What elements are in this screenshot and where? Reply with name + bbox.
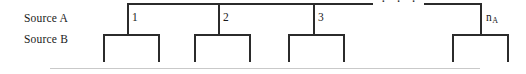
source-b-bracket-top-3	[288, 34, 345, 36]
group-caption-n: nA	[486, 11, 498, 23]
source-b-leg-2-left	[194, 34, 196, 62]
group-caption-n-subscript: A	[492, 16, 498, 25]
group-caption-2: 2	[223, 11, 229, 23]
group-caption-1: 1	[132, 11, 138, 23]
group-caption-2-text: 2	[223, 11, 229, 23]
group-caption-n-text: n	[486, 11, 492, 23]
source-b-leg-3-right	[343, 34, 345, 62]
source-b-leg-n-right	[507, 34, 509, 62]
source-b-bracket-top-n	[452, 34, 509, 36]
source-b-bracket-top-1	[103, 34, 160, 36]
source-b-bracket-top-2	[194, 34, 251, 36]
group-caption-1-text: 1	[132, 11, 138, 23]
source-a-stem-1	[127, 3, 129, 34]
group-caption-3-text: 3	[318, 11, 324, 23]
source-b-leg-1-right	[158, 34, 160, 62]
source-b-leg-2-right	[249, 34, 251, 62]
bottom-divider-rule	[50, 68, 480, 69]
source-hierarchy-diagram: Source A Source B 1 2 3 nA · · ·	[0, 0, 526, 74]
source-a-stem-n	[480, 3, 482, 34]
source-b-leg-n-left	[452, 34, 454, 62]
row-label-source-b: Source B	[24, 33, 68, 45]
source-a-spine-right	[424, 3, 481, 5]
row-label-source-a: Source A	[24, 12, 68, 24]
source-b-leg-3-left	[288, 34, 290, 62]
source-b-leg-1-left	[103, 34, 105, 62]
source-a-stem-3	[313, 3, 315, 34]
ellipsis-separator: · · ·	[381, 0, 420, 10]
group-caption-3: 3	[318, 11, 324, 23]
source-a-spine-left	[127, 3, 373, 5]
source-a-stem-2	[218, 3, 220, 34]
